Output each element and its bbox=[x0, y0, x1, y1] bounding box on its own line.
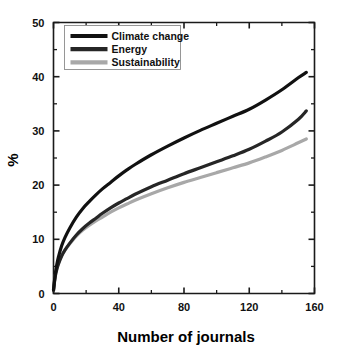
y-tick-label: 30 bbox=[32, 125, 44, 137]
y-tick-label: 20 bbox=[32, 179, 44, 191]
x-axis-title: Number of journals bbox=[117, 328, 255, 345]
legend-label: Climate change bbox=[112, 30, 190, 42]
legend-label: Energy bbox=[112, 43, 148, 55]
y-tick-label: 50 bbox=[32, 17, 44, 29]
legend-label: Sustainability bbox=[112, 56, 180, 68]
y-tick-label: 40 bbox=[32, 71, 44, 83]
x-tick-label: 80 bbox=[178, 301, 190, 313]
x-tick-label: 0 bbox=[50, 301, 56, 313]
y-tick-label: 10 bbox=[32, 233, 44, 245]
x-tick-label: 40 bbox=[113, 301, 125, 313]
y-axis-title: % bbox=[4, 153, 21, 166]
y-tick-label: 0 bbox=[38, 288, 44, 300]
x-tick-label: 120 bbox=[240, 301, 258, 313]
x-tick-label: 160 bbox=[305, 301, 323, 313]
line-chart: 04080120160 01020304050 Number of journa… bbox=[0, 0, 340, 347]
chart-figure: 04080120160 01020304050 Number of journa… bbox=[0, 0, 340, 347]
chart-legend: Climate changeEnergySustainability bbox=[65, 26, 190, 70]
